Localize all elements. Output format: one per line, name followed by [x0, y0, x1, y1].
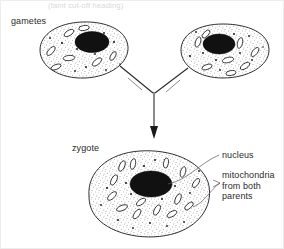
figure-top-caption: (faint cut-off heading): [48, 1, 123, 10]
label-gametes: gametes: [11, 16, 46, 27]
cell-zygote: [89, 151, 210, 237]
label-zygote: zygote: [72, 143, 99, 154]
nucleus-zygote: [130, 171, 172, 197]
label-mitochondria-line2: from both: [222, 181, 275, 192]
cell-gamete-right: [181, 24, 269, 78]
cell-gamete-left: [40, 22, 128, 78]
label-mitochondria-line3: parents: [222, 191, 275, 202]
nucleus-gamete-left: [75, 32, 109, 53]
label-nucleus: nucleus: [222, 150, 254, 161]
diagram-canvas: [0, 0, 284, 249]
arrowhead-icon: [150, 126, 158, 139]
label-mitochondria-line1: mitochondria: [222, 170, 275, 181]
label-mitochondria: mitochondria from both parents: [222, 170, 275, 202]
nucleus-gamete-right: [203, 34, 235, 54]
fusion-arrow: [120, 66, 188, 139]
biology-diagram: (faint cut-off heading) gametes zygote n…: [0, 0, 284, 249]
